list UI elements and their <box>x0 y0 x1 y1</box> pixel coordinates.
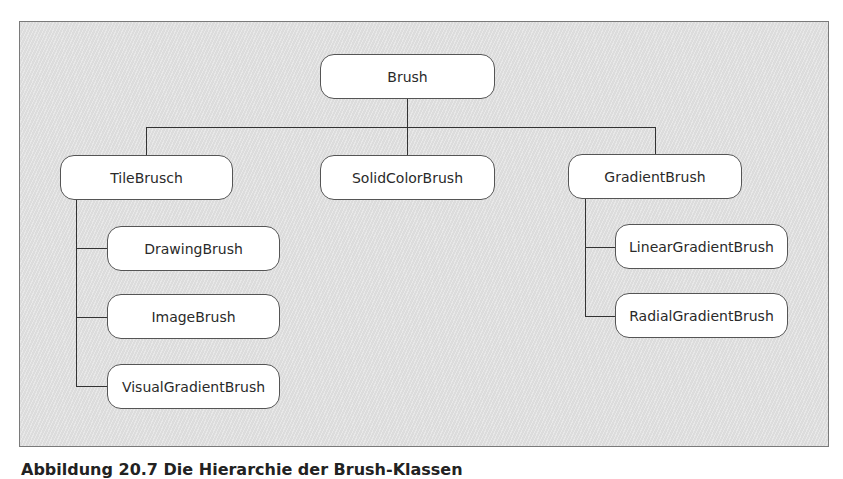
node-brush: Brush <box>320 54 495 99</box>
node-tilebrusch: TileBrusch <box>60 155 233 200</box>
connector-to-solidcolorbrush <box>407 127 408 155</box>
node-lineargradientbrush: LinearGradientBrush <box>615 224 788 269</box>
connector-to-gradientbrush <box>655 127 656 154</box>
connector-level1-bus <box>146 127 655 128</box>
node-imagebrush: ImageBrush <box>107 294 280 339</box>
connector-to-radialgradientbrush <box>585 316 615 317</box>
connector-tile-trunk <box>76 199 77 386</box>
connector-root-down <box>407 99 408 127</box>
figure-caption: Abbildung 20.7 Die Hierarchie der Brush-… <box>21 460 463 479</box>
connector-to-visualgradientbrush <box>76 386 107 387</box>
connector-to-drawingbrush <box>76 248 107 249</box>
node-radialgradientbrush: RadialGradientBrush <box>615 293 788 338</box>
node-solidcolorbrush: SolidColorBrush <box>320 155 495 200</box>
node-gradientbrush: GradientBrush <box>568 154 742 199</box>
node-drawingbrush: DrawingBrush <box>107 226 280 271</box>
connector-to-imagebrush <box>76 317 107 318</box>
node-visualgradientbrush: VisualGradientBrush <box>107 364 280 409</box>
connector-gradient-trunk <box>585 199 586 316</box>
connector-to-tilebrusch <box>146 127 147 155</box>
connector-to-lineargradientbrush <box>585 247 615 248</box>
